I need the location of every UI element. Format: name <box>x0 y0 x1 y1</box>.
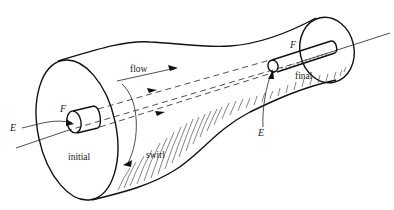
F-inlet-label: F <box>59 103 67 114</box>
outlet-E-arrow <box>263 70 274 127</box>
inlet-E-arrow <box>22 119 74 128</box>
flow-label: flow <box>130 64 148 74</box>
arrow-icon <box>155 111 165 116</box>
centre-axis <box>16 33 390 148</box>
streamlines <box>98 60 275 127</box>
swirl-label: swirl <box>146 150 165 160</box>
initial-label: initial <box>68 152 91 162</box>
swirl-arrow <box>122 84 136 167</box>
arrowhead-icon <box>123 160 132 167</box>
tube-body <box>24 12 360 207</box>
arrowhead-icon <box>66 119 74 126</box>
arrowhead-icon <box>168 65 178 71</box>
E-inlet-label: E <box>9 122 16 133</box>
final-label: final <box>295 71 313 81</box>
initial-inlet-cylinder <box>65 106 100 134</box>
swirl-tube-diagram: flow swirl initial final F F E E <box>0 0 394 210</box>
arrow-icon <box>147 88 157 93</box>
F-outlet-label: F <box>289 39 297 50</box>
surface-hatching <box>118 67 346 190</box>
flow-arrow <box>117 65 178 81</box>
E-outlet-label: E <box>257 127 264 138</box>
